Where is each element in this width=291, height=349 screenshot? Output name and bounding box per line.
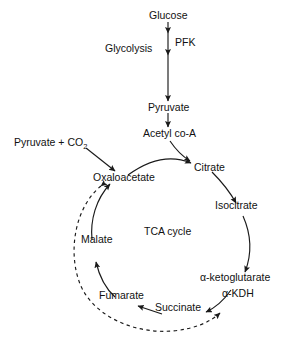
node-glucose: Glucose [149,10,188,21]
cycle-center-label: TCA cycle [144,226,191,237]
enzyme-pfk: PFK [175,37,195,48]
node-acetyl-coa: Acetyl co-A [143,128,196,139]
node-pyruvate-co2-text: Pyruvate + CO [14,136,83,148]
node-alpha-ketoglutarate: α-ketoglutarate [200,272,270,283]
node-pyruvate-co2-subscript: 2 [83,142,87,151]
edge-acetylcoa-citrate [170,141,190,161]
edge-pyruvateco2-oxaloacetate [86,148,115,171]
enzyme-alpha-kdh: α-KDH [222,288,254,299]
node-pyruvate-co2: Pyruvate + CO2 [14,137,87,151]
edge-isocitrate-ketoglutarate [243,216,250,272]
node-pyruvate: Pyruvate [148,102,189,113]
node-oxaloacetate: Oxaloacetate [93,172,155,183]
node-fumarate: Fumarate [99,290,144,301]
diagram-canvas: Glucose Pyruvate Acetyl co-A Pyruvate + … [0,0,291,349]
node-malate: Malate [81,234,113,245]
node-isocitrate: Isocitrate [215,200,258,211]
node-citrate: Citrate [194,162,225,173]
node-succinate: Succinate [155,302,201,313]
pathway-label-glycolysis: Glycolysis [105,43,152,54]
